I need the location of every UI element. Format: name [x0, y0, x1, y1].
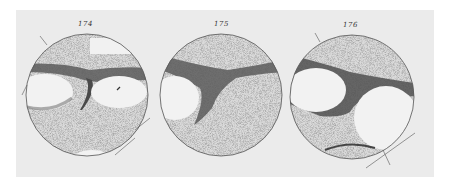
figure-number-174: 174	[78, 20, 93, 28]
figure-175	[151, 30, 290, 160]
figure-number-175: 175	[214, 20, 229, 28]
figure-176	[285, 30, 420, 168]
figure-number-176: 176	[343, 21, 358, 29]
figure-174	[17, 30, 160, 166]
